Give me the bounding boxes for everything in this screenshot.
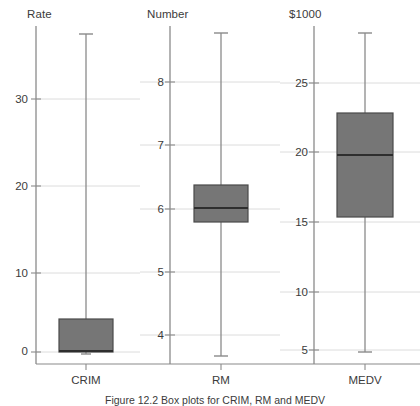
category-label-rm: RM xyxy=(171,374,271,386)
category-label-medv: MEDV xyxy=(315,374,415,386)
figure-caption: Figure 12.2 Box plots for CRIM, RM and M… xyxy=(105,394,325,406)
box-crim xyxy=(59,319,113,352)
tick-label-medv-25: 25 xyxy=(280,77,308,89)
panel-rm: Number 8 7 6 5 4 xyxy=(140,0,280,405)
tick-label-medv-20: 20 xyxy=(280,146,308,158)
tick-label-crim-0: 0 xyxy=(4,345,28,357)
tick-label-medv-15: 15 xyxy=(280,216,308,228)
tick-label-rm-5: 5 xyxy=(140,266,164,278)
tick-label-crim-30: 30 xyxy=(4,93,28,105)
box-medv xyxy=(337,113,393,217)
axis-title-medv: $1000 xyxy=(289,8,321,20)
box-rm xyxy=(194,185,248,222)
tick-label-rm-6: 6 xyxy=(140,203,164,215)
category-label-crim: CRIM xyxy=(36,374,136,386)
tick-label-rm-8: 8 xyxy=(140,76,164,88)
tick-label-medv-5: 5 xyxy=(280,344,308,356)
tick-label-crim-20: 20 xyxy=(4,180,28,192)
panel-crim: Rate 30 20 10 0 xyxy=(0,0,140,405)
tick-label-crim-10: 10 xyxy=(4,267,28,279)
tick-label-rm-7: 7 xyxy=(140,139,164,151)
tick-label-medv-10: 10 xyxy=(280,286,308,298)
axis-title-rm: Number xyxy=(147,8,189,20)
axis-title-crim: Rate xyxy=(27,8,52,20)
tick-label-rm-4: 4 xyxy=(140,329,164,341)
panel-medv: $1000 25 20 15 10 5 xyxy=(280,0,420,405)
